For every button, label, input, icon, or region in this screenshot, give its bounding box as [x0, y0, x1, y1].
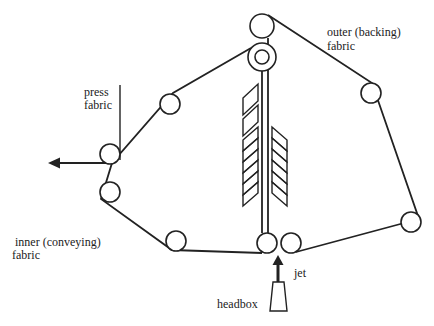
- bottom-left-roll: [166, 231, 186, 251]
- forming-blades-left: [243, 84, 258, 206]
- press-fabric-label-1: press: [84, 85, 109, 99]
- jet-arrow: [273, 255, 284, 282]
- breast-roll-inner: [257, 233, 277, 253]
- headbox-label: headbox: [217, 297, 258, 311]
- rolls: [100, 14, 421, 253]
- inner-fabric-loop: [101, 48, 262, 253]
- press-fabric-label-2: fabric: [84, 98, 112, 112]
- outer-fabric-label-1: outer (backing): [327, 25, 401, 39]
- forming-blades-right: [272, 127, 287, 206]
- twin-wire-former-diagram: outer (backing) fabric press fabric inne…: [0, 0, 434, 326]
- press-roll: [100, 144, 120, 164]
- breast-roll-outer: [281, 233, 301, 253]
- inner-fabric-label-1: inner (conveying): [15, 235, 101, 249]
- jet-label: jet: [293, 266, 307, 280]
- top-roll: [250, 14, 274, 38]
- headbox-nozzle: [270, 282, 287, 311]
- upper-left-roll: [160, 94, 180, 114]
- outer-fabric-label-2: fabric: [327, 39, 355, 53]
- lower-right-roll: [401, 212, 421, 232]
- left-roll: [100, 182, 120, 202]
- forming-roll-core: [255, 50, 269, 64]
- upper-right-roll: [361, 83, 381, 103]
- inner-fabric-label-2: fabric: [12, 248, 40, 262]
